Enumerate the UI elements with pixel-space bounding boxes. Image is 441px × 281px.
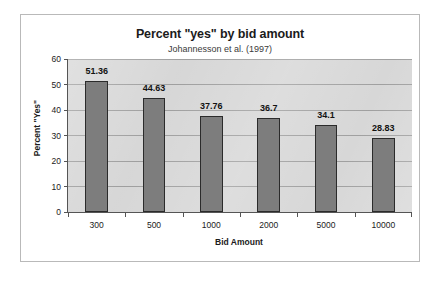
y-axis-title: Percent "Yes" xyxy=(32,80,42,176)
y-axis-label: 20 xyxy=(52,156,61,166)
bar-value-label: 37.76 xyxy=(200,101,223,111)
chart-title: Percent "yes" by bid amount xyxy=(21,27,419,41)
gridline xyxy=(68,186,412,187)
x-axis-tick xyxy=(125,212,126,217)
bar[interactable] xyxy=(85,81,108,212)
x-axis-tick xyxy=(240,212,241,217)
y-axis-tick xyxy=(64,110,68,111)
bar-value-label: 34.1 xyxy=(317,110,335,120)
gridline xyxy=(68,161,412,162)
bar[interactable] xyxy=(315,125,338,212)
y-axis-tick xyxy=(64,135,68,136)
x-axis-label: 300 xyxy=(90,220,104,230)
x-axis-label: 10000 xyxy=(372,220,396,230)
y-axis-label: 40 xyxy=(52,105,61,115)
gridline xyxy=(68,84,412,85)
y-axis-label: 60 xyxy=(52,54,61,64)
plot-area: 010203040506051.3630044.6350037.76100036… xyxy=(67,59,412,213)
x-axis-label: 1000 xyxy=(202,220,221,230)
y-axis-tick xyxy=(64,186,68,187)
x-axis-tick xyxy=(183,212,184,217)
y-axis-label: 10 xyxy=(52,182,61,192)
bar[interactable] xyxy=(257,118,280,212)
x-axis-title: Bid Amount xyxy=(67,237,411,247)
y-axis-tick xyxy=(64,161,68,162)
y-axis-label: 0 xyxy=(56,207,61,217)
x-axis-label: 5000 xyxy=(317,220,336,230)
bar-value-label: 51.36 xyxy=(85,66,108,76)
bar[interactable] xyxy=(372,138,395,212)
bar[interactable] xyxy=(200,116,223,212)
bar-value-label: 44.63 xyxy=(143,83,166,93)
x-axis-label: 500 xyxy=(147,220,161,230)
x-axis-tick xyxy=(297,212,298,217)
x-axis-tick xyxy=(68,212,69,217)
bar-value-label: 36.7 xyxy=(260,103,278,113)
gridline xyxy=(68,135,412,136)
x-axis-label: 2000 xyxy=(259,220,278,230)
bar-value-label: 28.83 xyxy=(372,123,395,133)
x-axis-tick xyxy=(411,212,412,217)
x-axis-tick xyxy=(355,212,356,217)
gridline xyxy=(68,110,412,111)
chart-frame: Percent "yes" by bid amount Johannesson … xyxy=(20,14,420,262)
y-axis-tick xyxy=(64,59,68,60)
gridline xyxy=(68,59,412,60)
y-axis-label: 50 xyxy=(52,80,61,90)
y-axis-tick xyxy=(64,84,68,85)
y-axis-label: 30 xyxy=(52,131,61,141)
chart-subtitle: Johannesson et al. (1997) xyxy=(21,44,419,54)
bar[interactable] xyxy=(143,98,166,212)
